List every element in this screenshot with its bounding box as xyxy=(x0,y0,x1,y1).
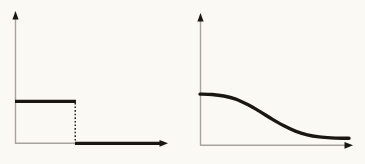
sigmoid-decay-svg xyxy=(183,0,365,164)
y-axis-arrowhead-icon xyxy=(12,11,18,20)
y-axis-arrowhead-icon xyxy=(197,13,203,22)
step-function-svg xyxy=(0,0,183,164)
sigmoid-decay-plot xyxy=(183,0,365,164)
figure-root xyxy=(0,0,365,164)
x-axis-arrowhead-icon xyxy=(345,142,354,149)
sigmoid-decay-curve xyxy=(200,94,349,138)
step-function-plot xyxy=(0,0,183,164)
x-axis-arrowhead-icon xyxy=(160,140,169,147)
